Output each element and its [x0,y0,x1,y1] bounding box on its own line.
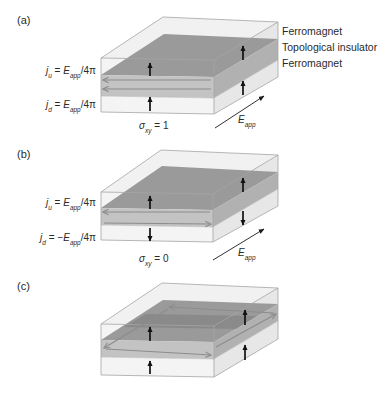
ti-inner-region [124,314,257,329]
eq-equals: = [46,232,57,243]
eq-rhs-sub: app [70,106,81,114]
field-sub: app [245,121,256,129]
sigma-value: 0 [163,253,169,264]
eq-equals: = [52,99,63,110]
eq-tail: /4π [81,232,96,243]
eq-rhs-sub: app [70,239,81,247]
upper-current-equation: ju = Eapp/4π [44,197,96,212]
sigma-value: 1 [163,120,169,131]
trilayer-block-a [101,17,278,114]
bottom-ferromagnet-front [101,96,214,114]
panel-a-label: (a) [17,14,30,26]
layer-label-top-ferromagnet: Ferromagnet [282,25,342,37]
hall-conductivity-label: σxy = 1 [139,120,169,135]
bottom-ferromagnet-front [101,357,214,377]
heterostructure-figure: (a) Eapp ju = Eapp/4π jd = Eapp/4π σxy =… [0,0,391,394]
applied-field-label: Eapp [238,247,256,262]
layer-label-bottom-ferromagnet: Ferromagnet [282,57,342,69]
applied-field-label: Eapp [238,114,256,129]
hall-conductivity-label: σxy = 0 [139,253,169,268]
eq-equals: = [52,197,63,208]
eq-rhs-sub: app [70,72,81,80]
sigma-equals: = [152,120,163,131]
eq-tail: /4π [81,197,96,208]
lower-current-equation: jd = Eapp/4π [44,99,96,114]
panel-b: (b) Eapp ju = Eapp/4π jd = −Eapp/4π σxy … [17,148,278,268]
eq-rhs-sub: app [70,204,81,212]
upper-current-equation: ju = Eapp/4π [44,65,96,80]
panel-a: (a) Eapp ju = Eapp/4π jd = Eapp/4π σxy =… [17,14,378,135]
panel-c: (c) [17,280,278,377]
trilayer-block-b [101,150,278,242]
sigma-equals: = [152,253,163,264]
panel-c-label: (c) [17,280,30,292]
bottom-ferromagnet-front [101,225,213,242]
field-sub: app [245,254,256,262]
layer-label-topological-insulator: Topological insulator [282,41,378,53]
ti-front-face [101,75,214,98]
eq-tail: /4π [81,65,96,76]
eq-tail: /4π [81,99,96,110]
trilayer-block-c [101,283,278,377]
lower-current-equation: jd = −Eapp/4π [38,232,96,247]
panel-b-label: (b) [17,148,30,160]
eq-equals: = [52,65,63,76]
